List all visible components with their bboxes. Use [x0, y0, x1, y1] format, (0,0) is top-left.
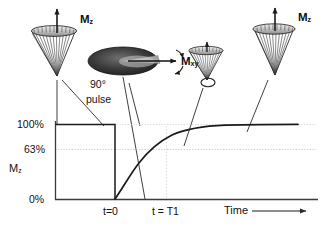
x-tick-t-t1: t = T1 [152, 206, 179, 217]
mxy-label: Mxy [181, 56, 199, 68]
y-tick-100: 100% [17, 119, 44, 130]
y-tick-0: 0% [29, 194, 44, 205]
spin-cone-recovered-icon [253, 8, 295, 75]
chart-axes [55, 121, 318, 200]
y-axis-label: Mz [9, 163, 22, 175]
mz-right-label: Mz [298, 12, 311, 24]
pulse-angle-label: 90° [90, 79, 106, 90]
chart-gridlines [55, 125, 316, 200]
y-tick-63: 63% [24, 144, 45, 155]
x-tick-t-zero: t=0 [103, 206, 118, 217]
figure-canvas: ұ [0, 0, 325, 227]
spin-cone-full-longitudinal-icon: ұ [32, 9, 77, 76]
x-axis-label: Time [224, 205, 248, 216]
relaxation-figure: ұ [0, 0, 325, 227]
spin-disk-transverse-icon [88, 47, 183, 75]
pulse-word-label: pulse [86, 94, 111, 105]
mz-recovery-curve [56, 124, 299, 199]
mz-left-label: Mz [80, 14, 93, 26]
